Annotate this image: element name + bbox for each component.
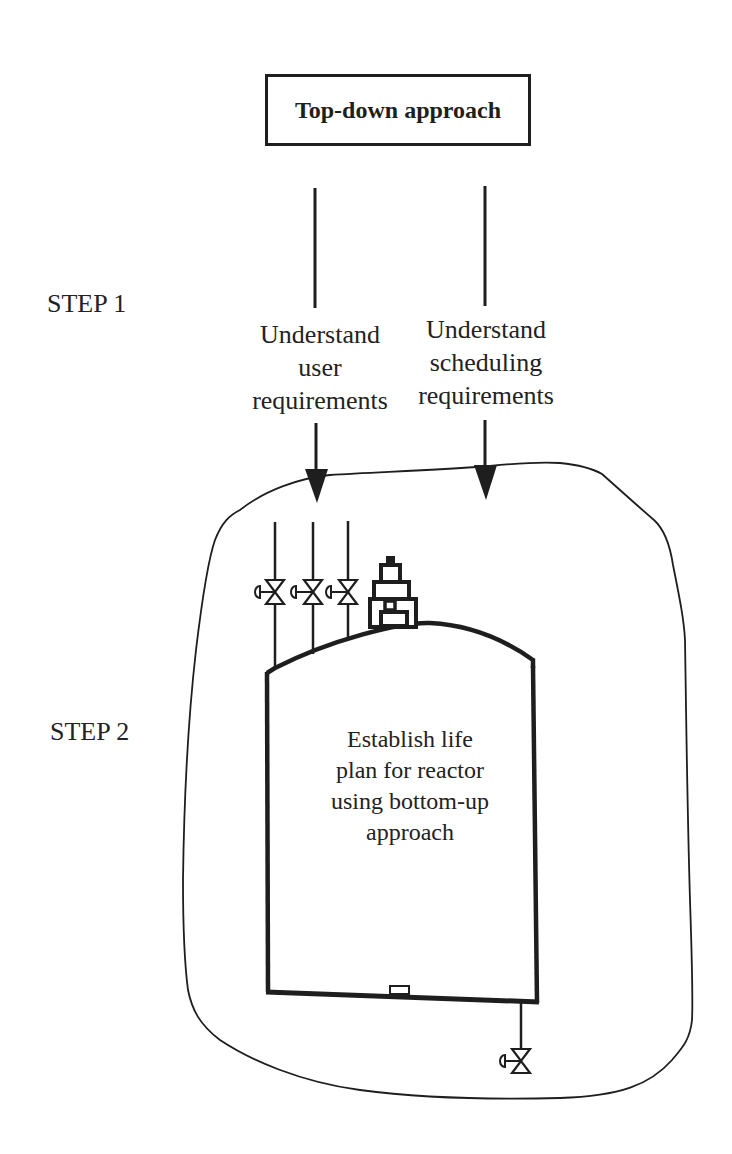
diagram-title: Top-down approach bbox=[295, 97, 501, 124]
agitator-drive-icon bbox=[370, 556, 416, 627]
step-2-label: STEP 2 bbox=[50, 719, 129, 745]
sched-req-line-3: requirements bbox=[402, 379, 570, 412]
user-req-line-2: user bbox=[238, 351, 402, 384]
bottom-nozzle bbox=[390, 986, 409, 994]
valve-icon bbox=[291, 580, 322, 604]
diagram-canvas bbox=[0, 0, 732, 1154]
arrow-scheduling-head bbox=[474, 465, 497, 500]
scheduling-requirements-label: Understand scheduling requirements bbox=[402, 313, 570, 412]
user-requirements-label: Understand user requirements bbox=[238, 318, 402, 417]
sched-req-line-2: scheduling bbox=[402, 346, 570, 379]
step-1-label: STEP 1 bbox=[47, 291, 126, 317]
vessel-line-4: approach bbox=[290, 817, 530, 848]
user-req-line-3: requirements bbox=[238, 384, 402, 417]
arrow-user-head bbox=[305, 469, 328, 503]
vessel-line-1: Establish life bbox=[290, 724, 530, 755]
vessel-line-3: using bottom-up bbox=[290, 786, 530, 817]
valve-icon bbox=[326, 580, 357, 604]
vessel-description: Establish life plan for reactor using bo… bbox=[290, 724, 530, 848]
user-req-line-1: Understand bbox=[238, 318, 402, 351]
valve-icon bbox=[255, 580, 284, 604]
vessel-line-2: plan for reactor bbox=[290, 755, 530, 786]
title-box: Top-down approach bbox=[265, 74, 531, 146]
sched-req-line-1: Understand bbox=[402, 313, 570, 346]
outlet-valve-icon bbox=[500, 1049, 530, 1073]
